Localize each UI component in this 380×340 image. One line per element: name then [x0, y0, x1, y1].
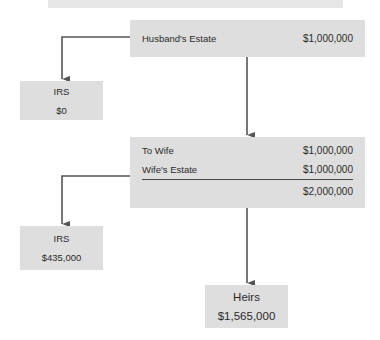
wife-estate-box: To Wife $1,000,000 Wife's Estate $1,000,…	[130, 137, 365, 208]
irs-box-1: IRS $0	[20, 81, 103, 120]
irs-2-label: IRS	[54, 233, 70, 244]
husband-estate-label: Husband's Estate	[142, 33, 216, 44]
husband-estate-box: Husband's Estate $1,000,000	[130, 20, 365, 57]
husband-estate-value: $1,000,000	[303, 33, 353, 44]
total-value: $2,000,000	[303, 186, 353, 197]
heirs-label: Heirs	[233, 291, 260, 303]
to-wife-label: To Wife	[142, 145, 174, 156]
wife-estate-label: Wife's Estate	[142, 164, 197, 175]
wife-estate-value: $1,000,000	[303, 164, 353, 175]
sum-divider	[142, 179, 353, 180]
irs-1-label: IRS	[54, 86, 70, 97]
irs-2-value: $435,000	[42, 252, 82, 263]
to-wife-value: $1,000,000	[303, 145, 353, 156]
irs-box-2: IRS $435,000	[20, 226, 103, 270]
heirs-value: $1,565,000	[218, 310, 276, 322]
heirs-box: Heirs $1,565,000	[205, 285, 288, 328]
irs-1-value: $0	[56, 105, 67, 116]
